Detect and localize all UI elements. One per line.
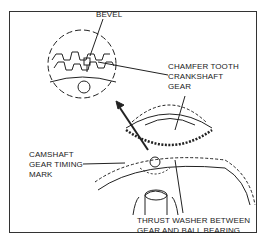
camshaft-hub [145, 191, 167, 215]
thrust-washer-label: THRUST WASHER BETWEEN [137, 216, 250, 226]
gear-timing-label: GEAR TIMING [29, 160, 83, 170]
camshaft-leader [83, 163, 125, 164]
crankshaft-label: CRANKSHAFT [168, 72, 223, 82]
ball-bearing-label: GEAR AND BALL BEARING [137, 226, 240, 236]
crankshaft-gear [126, 114, 212, 128]
detail-gear-teeth [52, 52, 110, 60]
gear-diagram [0, 0, 269, 249]
camshaft-label: CAMSHAFT [29, 150, 74, 160]
bevel-leader [90, 19, 103, 56]
mark-label: MARK [29, 170, 53, 180]
camshaft-gear [95, 158, 255, 205]
chamfer-tooth-label: CHAMFER TOOTH [168, 62, 239, 72]
crankshaft-gear-leader [175, 96, 185, 130]
chamfer-leader [98, 62, 168, 75]
bevel-label: BEVEL [96, 10, 122, 20]
callout-arrow [120, 108, 148, 150]
gear-label: GEAR [168, 82, 191, 92]
